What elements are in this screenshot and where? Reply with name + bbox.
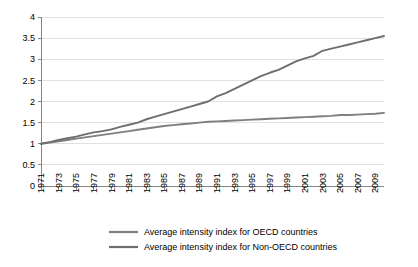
gridlines [41,17,384,186]
x-tick-label: 2009 [370,173,380,193]
series-line-0 [41,113,384,144]
x-tick-label: 1991 [212,173,222,193]
x-axis: 1971197319751977197919811983198519871989… [36,173,384,193]
x-tick-label: 1985 [159,173,169,193]
legend-label-1: Average intensity index for Non-OECD cou… [144,242,337,252]
x-tick-label: 1981 [124,173,134,193]
y-axis: 00.511.522.533.54 [22,12,41,191]
x-tick-label: 1973 [54,173,64,193]
x-tick-label: 1977 [89,173,99,193]
y-tick-label: 0 [30,181,35,191]
x-tick-label: 1971 [36,173,46,193]
y-tick-label: 2 [30,97,35,107]
x-tick-label: 1993 [230,173,240,193]
y-tick-label: 4 [30,12,35,22]
y-tick-label: 1.5 [22,118,35,128]
x-tick-label: 1999 [282,173,292,193]
x-tick-label: 1987 [177,173,187,193]
x-tick-label: 1983 [142,173,152,193]
x-tick-label: 2001 [300,173,310,193]
data-series [41,36,384,144]
x-tick-label: 1995 [247,173,257,193]
y-tick-label: 3.5 [22,33,35,43]
chart-container: 00.511.522.533.54 1971197319751977197919… [0,0,418,267]
x-tick-label: 2007 [353,173,363,193]
x-tick-label: 2003 [318,173,328,193]
x-tick-label: 2005 [335,173,345,193]
legend-label-0: Average intensity index for OECD countri… [144,227,318,237]
line-chart: 00.511.522.533.54 1971197319751977197919… [0,0,418,267]
x-tick-label: 1975 [71,173,81,193]
y-tick-label: 3 [30,54,35,64]
x-tick-label: 1997 [265,173,275,193]
y-tick-label: 0.5 [22,160,35,170]
y-tick-label: 2.5 [22,76,35,86]
series-line-1 [41,36,384,144]
chart-legend: Average intensity index for OECD countri… [109,227,337,252]
x-tick-label: 1979 [107,173,117,193]
y-tick-label: 1 [30,139,35,149]
x-tick-label: 1989 [195,173,205,193]
